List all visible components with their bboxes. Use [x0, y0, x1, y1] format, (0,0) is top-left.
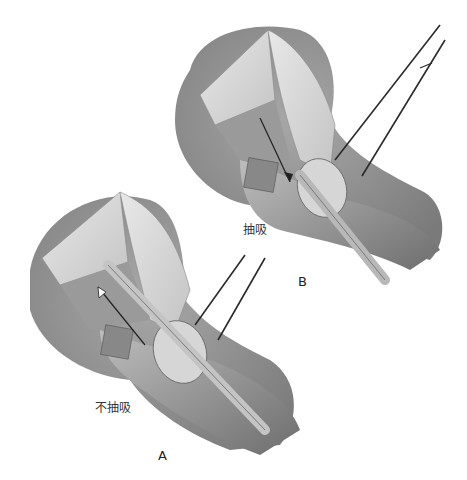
panel-letter-b: B: [298, 274, 307, 289]
panel-b: [175, 25, 445, 280]
surgical-illustration: 抽吸 B 不抽吸 A: [0, 0, 467, 480]
illustration-graphic: [0, 0, 467, 480]
panel-letter-a: A: [158, 448, 167, 463]
caption-panel-b: 抽吸: [243, 220, 267, 237]
caption-panel-a: 不抽吸: [95, 398, 131, 415]
